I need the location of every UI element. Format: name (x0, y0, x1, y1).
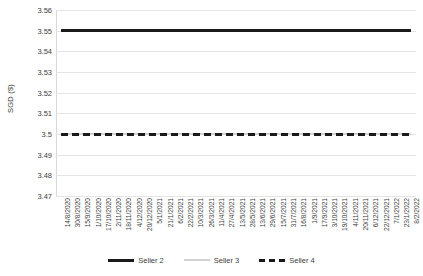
x-tick-label: 1/10/2020 (95, 198, 102, 227)
line-chart-figure: SGD ($) 3.473.483.493.53.513.523.533.543… (0, 0, 423, 276)
y-tick-label: 3.48 (37, 171, 52, 180)
y-tick-label: 3.56 (37, 6, 52, 15)
x-tick-label: 30/8/2020 (74, 198, 81, 227)
x-tick-label: 3/10/2021 (331, 198, 338, 227)
y-tick-label: 3.51 (37, 109, 52, 118)
legend-label: Seller 2 (138, 256, 163, 265)
x-tick-label: 15/9/2020 (84, 198, 91, 227)
y-tick-label: 3.5 (42, 130, 52, 139)
x-tick-label: 28/5/2021 (249, 198, 256, 227)
gridline (56, 155, 416, 156)
plot-area (56, 10, 416, 196)
x-tick-label: 17/10/2020 (105, 198, 112, 231)
gridline (56, 113, 416, 114)
gridline (56, 93, 416, 94)
x-tick-label: 19/10/2021 (341, 198, 348, 231)
x-tick-label: 26/3/2021 (208, 198, 215, 227)
x-tick-label: 4/11/2021 (352, 198, 359, 227)
x-tick-label: 17/9/2021 (321, 198, 328, 227)
y-axis-title-label: SGD ($) (6, 84, 15, 113)
y-axis-tick-labels: 3.473.483.493.53.513.523.533.543.553.56 (18, 10, 54, 196)
x-tick-label: 22/12/2021 (383, 198, 390, 231)
x-tick-label: 16/8/2021 (300, 198, 307, 227)
x-tick-label: 13/6/2021 (259, 198, 266, 227)
x-tick-label: 21/1/2021 (167, 198, 174, 227)
legend-item[interactable]: Seller 3 (184, 256, 239, 265)
gridline (56, 10, 416, 11)
y-axis-title: SGD ($) (2, 0, 18, 196)
gridline (56, 175, 416, 176)
x-tick-label: 20/11/2021 (362, 198, 369, 231)
x-tick-label: 13/5/2021 (239, 198, 246, 227)
x-tick-label: 5/1/2021 (156, 198, 163, 224)
x-tick-label: 6/2/2021 (177, 198, 184, 224)
gridline (56, 51, 416, 52)
y-axis-spine (56, 10, 57, 196)
x-tick-label: 14/8/2020 (64, 198, 71, 227)
x-tick-label: 8/2/2022 (413, 198, 420, 224)
x-axis-tick-labels: 14/8/202030/8/202015/9/20201/10/202017/1… (56, 198, 416, 246)
chart-legend: Seller 2Seller 3Seller 4 (0, 252, 423, 268)
legend-swatch-icon (184, 259, 210, 261)
legend-swatch-icon (259, 259, 285, 262)
x-tick-label: 23/1/2022 (403, 198, 410, 227)
y-tick-label: 3.54 (37, 47, 52, 56)
gridline (56, 72, 416, 73)
x-tick-label: 22/2/2021 (187, 198, 194, 227)
legend-label: Seller 4 (289, 256, 314, 265)
x-tick-label: 4/12/2020 (136, 198, 143, 227)
series-line-seller-4 (61, 133, 411, 136)
x-tick-label: 27/4/2021 (228, 198, 235, 227)
legend-swatch-icon (108, 259, 134, 262)
x-tick-label: 31/7/2021 (290, 198, 297, 227)
x-tick-label: 7/1/2022 (393, 198, 400, 224)
series-line-seller-2 (61, 29, 411, 32)
y-tick-label: 3.49 (37, 150, 52, 159)
legend-item[interactable]: Seller 2 (108, 256, 163, 265)
x-tick-label: 10/3/2021 (197, 198, 204, 227)
y-tick-label: 3.47 (37, 192, 52, 201)
x-tick-label: 20/12/2020 (146, 198, 153, 231)
legend-label: Seller 3 (214, 256, 239, 265)
x-tick-label: 1/9/2021 (311, 198, 318, 224)
y-tick-label: 3.55 (37, 26, 52, 35)
x-tick-label: 18/11/2020 (125, 198, 132, 231)
x-tick-label: 15/7/2021 (280, 198, 287, 227)
x-tick-label: 29/6/2021 (269, 198, 276, 227)
x-tick-label: 6/12/2021 (372, 198, 379, 227)
x-tick-label: 11/4/2021 (218, 198, 225, 227)
y-tick-label: 3.52 (37, 88, 52, 97)
y-tick-label: 3.53 (37, 68, 52, 77)
x-tick-label: 2/11/2020 (115, 198, 122, 227)
legend-item[interactable]: Seller 4 (259, 256, 314, 265)
